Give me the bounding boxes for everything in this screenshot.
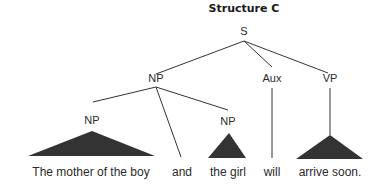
syntax-tree-diagram: Structure C S NP Aux VP NP NP The mother…: [0, 0, 383, 190]
edge-np-and: [156, 87, 181, 157]
node-np-left: NP: [84, 114, 99, 126]
word-will: will: [263, 165, 281, 179]
node-np-main: NP: [148, 72, 163, 84]
edge-s-aux: [244, 41, 272, 67]
node-aux: Aux: [263, 72, 282, 84]
edge-s-vp: [244, 41, 328, 73]
word-the-mother-of-the-boy: The mother of the boy: [32, 165, 149, 179]
node-s: S: [240, 25, 247, 37]
vp-triangle: [296, 135, 363, 159]
edge-np-npleft: [93, 87, 156, 102]
np-left-triangle: [28, 131, 155, 156]
word-and: and: [172, 165, 192, 179]
node-vp: VP: [323, 72, 338, 84]
edge-s-np: [156, 41, 244, 74]
word-the-girl: the girl: [210, 165, 246, 179]
diagram-title: Structure C: [209, 2, 280, 15]
edge-np-npright: [156, 87, 228, 110]
np-right-triangle: [208, 133, 246, 158]
word-arrive-soon: arrive soon.: [299, 165, 362, 179]
node-np-right: NP: [220, 115, 235, 127]
